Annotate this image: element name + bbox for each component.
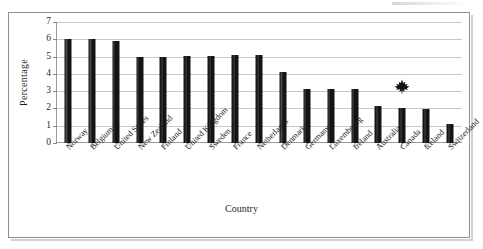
y-tick-label: 6 (46, 34, 51, 44)
y-tick-mark (53, 108, 57, 109)
y-axis-title-text: Percentage (18, 59, 29, 106)
bar-united-states[interactable] (112, 41, 119, 143)
y-tick-mark (53, 126, 57, 127)
bar-france[interactable] (232, 55, 239, 143)
y-tick-label: 1 (46, 121, 51, 131)
chart-figure: Percentage 01234567 NorwayBelgiumUnited … (0, 0, 483, 249)
y-tick-label: 5 (46, 52, 51, 62)
bar-germany[interactable] (303, 89, 310, 143)
bar-netherlands[interactable] (256, 55, 263, 143)
y-tick-mark (53, 22, 57, 23)
y-tick-mark (53, 143, 57, 144)
y-tick-mark (53, 91, 57, 92)
x-axis-title-text: Country (225, 203, 258, 214)
y-tick-mark (53, 74, 57, 75)
y-tick-mark (53, 57, 57, 58)
bar-luxembourg[interactable] (327, 89, 334, 143)
maple-leaf-icon (394, 78, 411, 95)
y-tick-label: 2 (46, 103, 51, 113)
gridline (56, 22, 462, 23)
y-tick-label: 7 (46, 17, 51, 27)
scan-artifact (392, 2, 462, 5)
y-tick-label: 0 (46, 138, 51, 148)
x-axis-title: Country (0, 203, 483, 214)
y-tick-mark (53, 39, 57, 40)
bar-belgium[interactable] (88, 39, 95, 143)
y-tick-label: 3 (46, 86, 51, 96)
y-tick-label: 4 (46, 69, 51, 79)
bar-united-kingdom[interactable] (184, 56, 191, 143)
bar-norway[interactable] (64, 39, 71, 143)
y-axis-title: Percentage (16, 22, 30, 143)
